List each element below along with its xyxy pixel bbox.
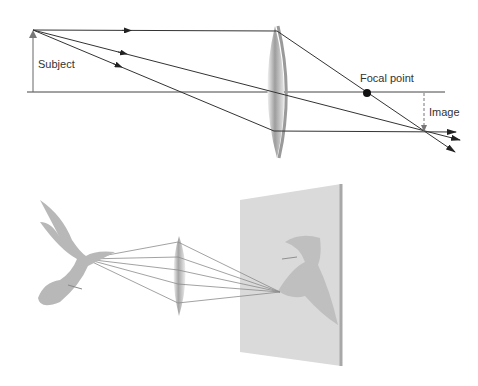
subject-label: Subject	[38, 58, 75, 70]
bird-subject	[38, 200, 115, 305]
focal-point-label: Focal point	[360, 72, 414, 84]
focal-point-dot	[363, 89, 371, 97]
lens-diagram: Subject Focal point Image	[0, 0, 478, 386]
projection-illustration	[38, 184, 341, 366]
ray-diagram: Subject Focal point Image	[27, 26, 460, 158]
convex-lens-small	[174, 236, 186, 316]
convex-lens	[267, 26, 286, 158]
image-label: Image	[429, 106, 460, 118]
